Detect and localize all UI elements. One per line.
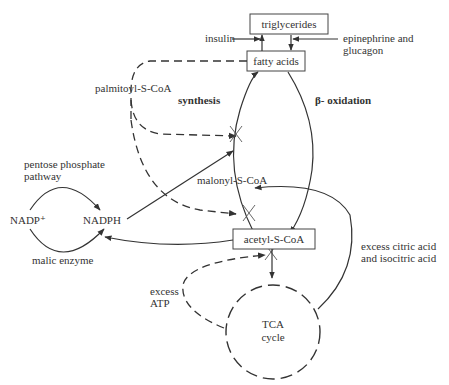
triglycerides-label: triglycerides	[262, 18, 317, 30]
atp-label-1: excess	[150, 285, 179, 297]
acetyl-coa-label: acetyl-S-CoA	[244, 233, 305, 245]
acetyl-to-nadph-arrow	[105, 237, 233, 244]
triglycerides-node: triglycerides	[250, 14, 328, 34]
pentose-label-2: pathway	[24, 170, 62, 182]
nadp-label: NADP⁺	[10, 214, 46, 226]
beta-oxidation-arrow	[288, 72, 313, 233]
malic-enzyme-label: malic enzyme	[32, 254, 94, 266]
tca-label-2: cycle	[261, 331, 284, 343]
palmitoyl-label: palmitoyl-S-CoA	[95, 82, 171, 94]
nadph-label: NADPH	[83, 214, 121, 226]
malic-arc	[30, 229, 104, 252]
pentose-arc	[30, 188, 100, 211]
insulin-label: insulin	[205, 32, 235, 44]
metabolic-pathway-diagram: triglycerides fatty acids insulin epinep…	[0, 0, 449, 385]
atp-inhibit-arrow	[183, 255, 265, 328]
tca-label-1: TCA	[262, 318, 284, 330]
citric-label-1: excess citric acid	[361, 240, 437, 252]
fatty-acids-node: fatty acids	[247, 51, 305, 71]
acetyl-coa-node: acetyl-S-CoA	[233, 229, 315, 249]
atp-label-2: ATP	[150, 297, 170, 309]
citric-label-2: and isocitric acid	[361, 252, 437, 264]
beta-oxidation-label: β- oxidation	[315, 94, 371, 106]
epinephrine-label: epinephrine and	[343, 32, 414, 44]
pentose-label-1: pentose phosphate	[24, 158, 105, 170]
synthesis-label: synthesis	[178, 94, 221, 106]
glucagon-label: glucagon	[343, 44, 384, 56]
malonyl-coa-label: malonyl-S-CoA	[197, 174, 267, 186]
fatty-acids-label: fatty acids	[253, 55, 299, 67]
